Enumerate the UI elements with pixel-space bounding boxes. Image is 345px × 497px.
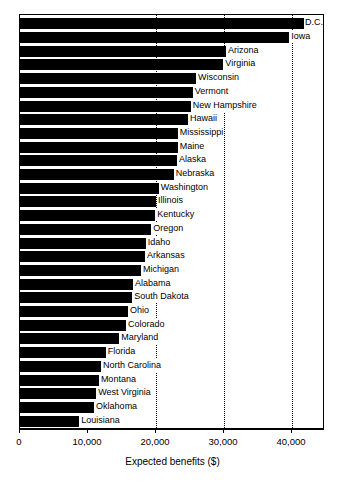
bar-label: Florida <box>107 345 137 358</box>
bar <box>20 59 223 70</box>
bar-row: Kentucky <box>20 210 324 221</box>
bar-label: West Virginia <box>97 386 152 399</box>
bar-label: Arkansas <box>146 249 186 262</box>
x-tick-label: 0 <box>16 436 21 448</box>
bar-label: Illinois <box>157 194 184 207</box>
bar <box>20 333 119 344</box>
bar <box>20 18 304 29</box>
bar-row: North Carolina <box>20 361 324 372</box>
bar-label: New Hampshire <box>192 99 258 112</box>
bar-label: Michigan <box>142 263 180 276</box>
bar-label: South Dakota <box>133 290 190 303</box>
bar <box>20 224 151 235</box>
bar-row: Louisiana <box>20 416 324 427</box>
x-tick <box>155 429 156 433</box>
bar <box>20 306 128 317</box>
bar-label: Arizona <box>227 44 260 57</box>
bar-label: Idaho <box>147 236 172 249</box>
bar <box>20 142 178 153</box>
bar <box>20 87 193 98</box>
bar-row: Iowa <box>20 32 324 43</box>
plot-area: D.C.IowaArizonaVirginiaWisconsinVermontN… <box>19 14 324 429</box>
x-tick <box>223 429 224 433</box>
x-tick-label: 30,000 <box>208 436 237 448</box>
bar-row: Washington <box>20 183 324 194</box>
bar-row: Nebraska <box>20 169 324 180</box>
bars-layer: D.C.IowaArizonaVirginiaWisconsinVermontN… <box>20 15 323 428</box>
bar-row: Oklahoma <box>20 402 324 413</box>
bar-label: Oklahoma <box>95 400 138 413</box>
bar <box>20 292 132 303</box>
bar <box>20 402 94 413</box>
bar <box>20 210 155 221</box>
bar-label: Mississippi <box>179 126 225 139</box>
x-axis-line <box>19 429 324 430</box>
bar <box>20 155 177 166</box>
bar-row: Maryland <box>20 333 324 344</box>
bar <box>20 32 289 43</box>
bar-row: D.C. <box>20 18 324 29</box>
bar-label: Kentucky <box>156 208 195 221</box>
bar <box>20 279 133 290</box>
bar <box>20 183 159 194</box>
bar <box>20 320 126 331</box>
x-tick-label: 40,000 <box>276 436 305 448</box>
bar-label: Ohio <box>129 304 150 317</box>
bar-label: Colorado <box>127 318 166 331</box>
bar <box>20 347 106 358</box>
bar-row: Colorado <box>20 320 324 331</box>
bar-label: Virginia <box>224 57 256 70</box>
bar-row: Hawaii <box>20 114 324 125</box>
bar <box>20 169 174 180</box>
bar-row: Mississippi <box>20 128 324 139</box>
bar <box>20 73 196 84</box>
bar-label: Maryland <box>120 331 159 344</box>
bar-label: Washington <box>160 181 209 194</box>
bar-row: Arizona <box>20 46 324 57</box>
x-tick-label: 20,000 <box>140 436 169 448</box>
bar-row: Idaho <box>20 238 324 249</box>
bar-row: Virginia <box>20 59 324 70</box>
bar-row: New Hampshire <box>20 101 324 112</box>
bar <box>20 46 226 57</box>
bar <box>20 388 96 399</box>
bar <box>20 238 146 249</box>
bar <box>20 196 156 207</box>
bar <box>20 114 188 125</box>
bar-label: Oregon <box>152 222 184 235</box>
bar-row: Arkansas <box>20 251 324 262</box>
bar-row: Montana <box>20 375 324 386</box>
bar-label: Louisiana <box>80 414 121 427</box>
bar-row: Florida <box>20 347 324 358</box>
bar-label: Maine <box>179 140 206 153</box>
bar <box>20 265 141 276</box>
bar-row: Vermont <box>20 87 324 98</box>
bar-row: South Dakota <box>20 292 324 303</box>
bar-row: Ohio <box>20 306 324 317</box>
bar-label: Wisconsin <box>197 71 240 84</box>
bar-row: Oregon <box>20 224 324 235</box>
bar <box>20 361 101 372</box>
bar-label: North Carolina <box>102 359 162 372</box>
bar-label: Alaska <box>178 153 207 166</box>
x-tick-label: 10,000 <box>72 436 101 448</box>
x-tick <box>87 429 88 433</box>
x-tick <box>291 429 292 433</box>
bar <box>20 375 99 386</box>
bar <box>20 416 79 427</box>
x-tick <box>19 429 20 433</box>
bar-row: Wisconsin <box>20 73 324 84</box>
bar-row: Maine <box>20 142 324 153</box>
bar-label: Iowa <box>290 30 311 43</box>
bar-label: Alabama <box>134 277 172 290</box>
bar-label: Montana <box>100 373 137 386</box>
bar-label: Hawaii <box>189 112 218 125</box>
bar-label: D.C. <box>304 16 324 29</box>
bar-label: Vermont <box>194 85 230 98</box>
bar-row: Illinois <box>20 196 324 207</box>
bar-row: West Virginia <box>20 388 324 399</box>
bar-chart: D.C.IowaArizonaVirginiaWisconsinVermontN… <box>0 0 345 497</box>
bar-row: Michigan <box>20 265 324 276</box>
bar <box>20 101 191 112</box>
bar <box>20 128 178 139</box>
